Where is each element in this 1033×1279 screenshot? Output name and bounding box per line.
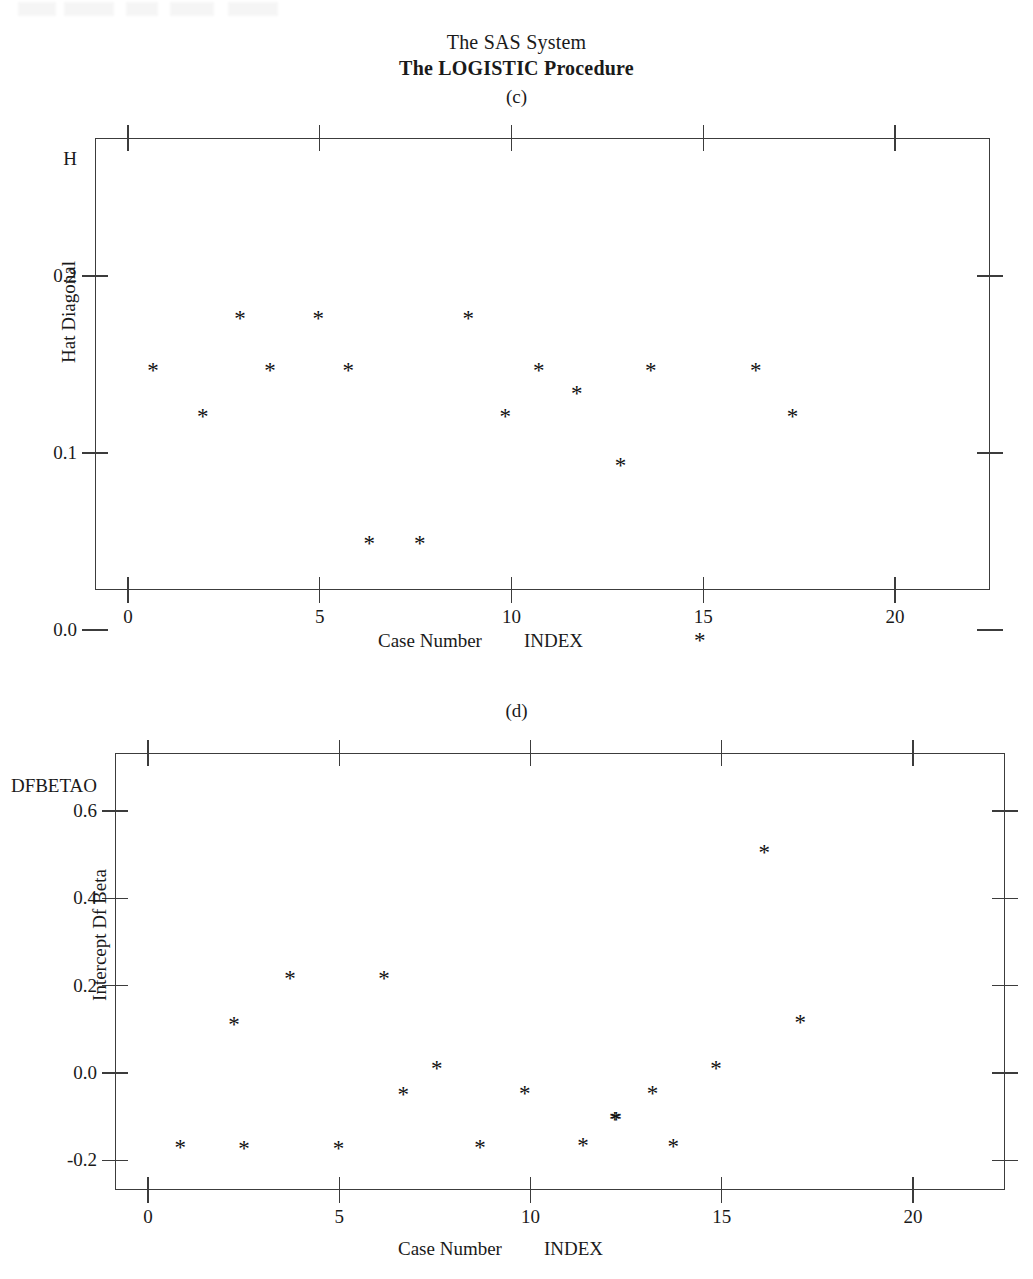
x-axis-tick-label: 10	[502, 606, 521, 628]
data-point-marker: *	[284, 966, 296, 989]
sas-system-title: The SAS System	[0, 30, 1033, 56]
x-axis-tick-bottom	[339, 1177, 340, 1203]
data-point-marker: *	[431, 1057, 443, 1080]
data-point-marker: *	[787, 404, 799, 427]
data-point-marker: *	[647, 1082, 659, 1105]
data-point-marker: *	[750, 358, 762, 381]
y-axis-variable-name: DFBETAO	[11, 775, 97, 797]
page-header: The SAS System The LOGISTIC Procedure	[0, 30, 1033, 81]
x-axis-tick-label: 0	[143, 1206, 153, 1228]
y-axis-tick-left	[82, 629, 108, 630]
data-point-marker: *	[397, 1082, 409, 1105]
y-axis-tick-label: 0.0	[53, 619, 77, 641]
x-axis-tick-label: 20	[904, 1206, 923, 1228]
data-point-marker: *	[609, 1108, 621, 1131]
x-axis-tick-top	[339, 740, 340, 766]
data-point-marker: *	[174, 1135, 186, 1158]
x-axis-tick-bottom	[147, 1177, 148, 1203]
y-axis-tick-right	[977, 275, 1003, 276]
data-point-marker: *	[645, 358, 657, 381]
x-axis-tick-label: 20	[886, 606, 905, 628]
x-axis-title: Case Number	[398, 1238, 502, 1259]
y-axis-tick-right	[992, 1072, 1018, 1073]
y-axis-tick-right	[977, 629, 1003, 630]
y-axis-title: Hat Diagonal	[58, 261, 80, 363]
data-point-marker: *	[333, 1136, 345, 1159]
y-axis-tick-label: 0.0	[73, 1062, 97, 1084]
panel-caption-c: (c)	[0, 86, 1033, 108]
y-axis-tick-left	[82, 452, 108, 453]
x-axis-variable-name: INDEX	[524, 630, 583, 651]
data-point-marker: *	[197, 404, 209, 427]
x-axis-tick-label: 15	[694, 606, 713, 628]
y-axis-tick-right	[992, 898, 1018, 899]
y-axis-tick-right	[992, 985, 1018, 986]
x-axis-tick-top	[703, 125, 704, 151]
y-axis-tick-left	[102, 1072, 128, 1073]
data-point-marker: *	[363, 531, 375, 554]
x-axis-tick-bottom	[530, 1177, 531, 1203]
data-point-marker: *	[378, 966, 390, 989]
y-axis-tick-right	[992, 810, 1018, 811]
data-point-marker: *	[474, 1135, 486, 1158]
x-axis-tick-top	[127, 125, 128, 151]
data-point-marker: *	[710, 1057, 722, 1080]
y-axis-tick-right	[977, 452, 1003, 453]
data-point-marker: *	[264, 358, 276, 381]
data-point-marker: *	[228, 1012, 240, 1035]
y-axis-variable-name: H	[63, 148, 77, 170]
panel-caption-d: (d)	[0, 700, 1033, 722]
x-axis-tick-bottom	[721, 1177, 722, 1203]
x-axis-tick-top	[530, 740, 531, 766]
data-point-marker: *	[758, 840, 770, 863]
x-axis-tick-top	[912, 740, 913, 766]
y-axis-title: Intercept Df Beta	[89, 869, 111, 1001]
x-axis-tick-bottom	[703, 577, 704, 603]
x-axis-tick-top	[319, 125, 320, 151]
x-axis-tick-label: 10	[521, 1206, 540, 1228]
x-axis-tick-label: 5	[335, 1206, 345, 1228]
data-point-marker: *	[500, 404, 512, 427]
y-axis-tick-left	[82, 275, 108, 276]
y-axis-tick-left	[102, 1160, 128, 1161]
data-point-marker: *	[234, 307, 246, 330]
data-point-marker: *	[571, 381, 583, 404]
x-axis-variable-name: INDEX	[544, 1238, 603, 1259]
data-point-marker: *	[312, 307, 324, 330]
plot-frame-d	[115, 753, 1005, 1190]
x-axis-tick-bottom	[319, 577, 320, 603]
data-point-marker: *	[414, 531, 426, 554]
data-point-marker: *	[615, 454, 627, 477]
y-axis-tick-label: 0.6	[73, 800, 97, 822]
data-point-marker: *	[342, 358, 354, 381]
scan-artifact-strip	[18, 2, 278, 16]
x-axis-tick-top	[894, 125, 895, 151]
x-axis-tick-top	[721, 740, 722, 766]
plot-panel-intercept-df-beta: (d) 051015200.60.40.20.0-0.2DFBETAOInter…	[0, 700, 1033, 1270]
data-point-marker: *	[794, 1011, 806, 1034]
y-axis-tick-left	[102, 810, 128, 811]
x-axis-tick-top	[147, 740, 148, 766]
x-axis-title-group: Case NumberINDEX	[378, 630, 583, 652]
y-axis-tick-label: -0.2	[67, 1149, 97, 1171]
x-axis-tick-label: 15	[712, 1206, 731, 1228]
x-axis-title-group: Case NumberINDEX	[398, 1238, 603, 1260]
x-axis-title: Case Number	[378, 630, 482, 651]
data-point-marker: *	[533, 358, 545, 381]
x-axis-tick-bottom	[511, 577, 512, 603]
data-point-marker: *	[462, 307, 474, 330]
data-point-marker: *	[238, 1136, 250, 1159]
x-axis-tick-label: 5	[315, 606, 325, 628]
y-axis-tick-label: 0.1	[53, 442, 77, 464]
x-axis-tick-bottom	[127, 577, 128, 603]
data-point-marker: *	[519, 1082, 531, 1105]
data-point-marker: *	[667, 1134, 679, 1157]
data-point-marker: *	[694, 629, 706, 652]
x-axis-tick-label: 0	[123, 606, 133, 628]
plot-panel-hat-diagonal: (c) 051015200.20.10.0HHat DiagonalCase N…	[0, 86, 1033, 666]
data-point-marker: *	[577, 1133, 589, 1156]
x-axis-tick-bottom	[912, 1177, 913, 1203]
y-axis-tick-right	[992, 1160, 1018, 1161]
logistic-procedure-title: The LOGISTIC Procedure	[0, 56, 1033, 82]
x-axis-tick-top	[511, 125, 512, 151]
